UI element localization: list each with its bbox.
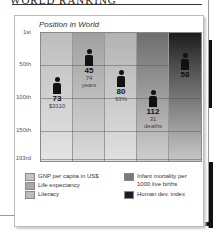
gridline-50 [41, 65, 201, 66]
top-rule [12, 4, 202, 5]
life-expectancy-value: 74 [74, 75, 104, 82]
y-tick-193rd: 193rd [9, 155, 31, 161]
plot-area: 73 $3110 45 74 years 80 93% 112 31 death… [40, 32, 202, 162]
literacy-rank: 80 [106, 87, 136, 96]
infant-mortality-rank: 112 [138, 107, 168, 116]
life-expectancy-rank: 45 [74, 66, 104, 75]
y-tick-100th: 100th [9, 94, 31, 100]
right-accent-foot [205, 222, 213, 226]
gnp-value: $3110 [42, 103, 72, 110]
gnp-rank: 73 [42, 94, 72, 103]
person-icon [85, 49, 93, 66]
life-expectancy-unit: years [74, 82, 104, 89]
page-title: WORLD RANKING [10, 0, 117, 6]
person-icon [181, 53, 189, 70]
person-icon [117, 70, 125, 87]
human-dev-rank: 58 [170, 70, 200, 79]
legend-swatch-literacy [25, 191, 35, 199]
legend-literacy: Literacy [38, 191, 59, 198]
legend-swatch-human-dev [124, 191, 134, 199]
literacy-value: 93% [106, 96, 136, 103]
legend-life-expectancy: Life expectancy [38, 182, 80, 189]
person-icon [53, 77, 61, 94]
chart-panel: Position in World 73 $3110 45 74 years 8… [14, 15, 204, 227]
person-icon [149, 90, 157, 107]
infant-mortality-value: 31 [138, 116, 168, 123]
legend-swatch-gnp [25, 173, 35, 181]
infant-mortality-unit: deaths [138, 123, 168, 130]
legend-swatch-life-expectancy [25, 182, 35, 190]
right-accent-bar [209, 40, 212, 108]
gridline-193 [41, 159, 201, 160]
y-tick-1st: 1st [9, 29, 31, 35]
y-tick-50th: 50th [9, 61, 31, 67]
left-rule [0, 215, 14, 216]
right-accent-bar [209, 162, 213, 228]
gridline-150 [41, 131, 201, 132]
legend-human-dev: Human dev. index [137, 191, 185, 198]
legend-gnp: GNP per capita in US$ [38, 173, 99, 180]
legend-swatch-infant-mortality [124, 173, 134, 181]
legend-infant-mortality-line2: 1000 live births [137, 181, 177, 188]
legend-infant-mortality: Infant mortality per [137, 173, 187, 180]
chart-title: Position in World [39, 20, 99, 29]
y-tick-150th: 150th [9, 127, 31, 133]
